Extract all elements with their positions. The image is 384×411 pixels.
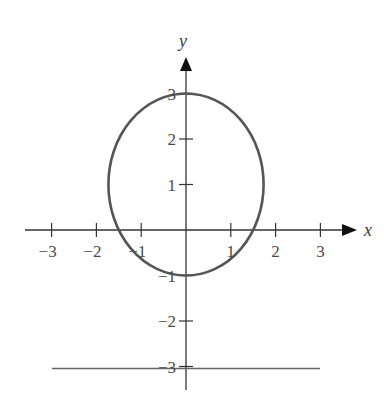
y-tick-label: −2 <box>158 312 176 331</box>
y-axis-label: y <box>177 31 187 51</box>
axes <box>25 57 357 390</box>
y-tick-label: 2 <box>168 130 177 149</box>
y-axis-arrow-icon <box>180 57 192 71</box>
x-tick-label: −2 <box>83 242 101 261</box>
y-tick-label: −3 <box>158 358 176 377</box>
x-tick-label: −1 <box>128 242 146 261</box>
x-axis-arrow-icon <box>342 224 357 236</box>
y-tick-label: 3 <box>168 85 177 104</box>
chart-plot: −3−2−1123321−1−2−3xy <box>0 0 384 411</box>
y-tick-label: −1 <box>158 267 176 286</box>
labels: −3−2−1123321−1−2−3xy <box>39 31 372 377</box>
x-tick-label: 1 <box>227 242 236 261</box>
x-axis-label: x <box>363 220 372 240</box>
x-tick-label: 2 <box>271 242 280 261</box>
y-tick-label: 1 <box>168 176 177 195</box>
x-tick-label: −3 <box>39 242 57 261</box>
x-tick-label: 3 <box>316 242 325 261</box>
